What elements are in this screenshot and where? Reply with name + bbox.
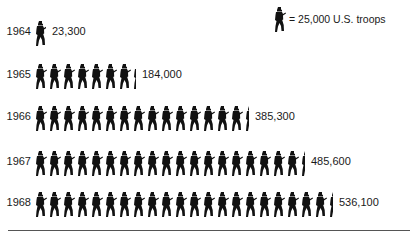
soldier-icon — [313, 191, 327, 217]
soldier-icon — [285, 191, 299, 217]
soldier-icon — [103, 150, 117, 176]
bottom-rule — [8, 230, 410, 231]
soldier-icon — [33, 150, 47, 176]
soldier-icon — [159, 105, 173, 131]
row-1964: 196423,300 — [0, 16, 86, 46]
soldier-icon — [215, 105, 229, 131]
soldier-icon — [47, 63, 61, 89]
soldier-icon — [173, 105, 187, 131]
row-1968: 1968536,100 — [0, 187, 379, 217]
value-label: 23,300 — [52, 25, 86, 37]
soldier-icon — [145, 150, 159, 176]
soldier-icon — [145, 191, 159, 217]
soldier-icon — [61, 63, 75, 89]
soldier-icon — [117, 105, 131, 131]
year-label: 1966 — [0, 110, 33, 122]
soldier-icon — [131, 105, 145, 131]
soldier-icon — [89, 150, 103, 176]
row-1966: 1966385,300 — [0, 101, 295, 131]
soldier-icon — [33, 63, 47, 89]
soldier-icon — [187, 105, 201, 131]
soldier-icon — [159, 191, 173, 217]
legend-label: = 25,000 U.S. troops — [289, 13, 386, 25]
soldier-icon — [229, 105, 243, 131]
partial-soldier-icon — [243, 105, 249, 131]
soldier-icon — [89, 63, 103, 89]
soldier-icon — [201, 191, 215, 217]
soldier-icon — [131, 150, 145, 176]
soldier-icon — [145, 105, 159, 131]
soldier-icon — [103, 105, 117, 131]
icon-group — [33, 146, 305, 176]
soldier-icon — [201, 150, 215, 176]
row-1967: 1967485,600 — [0, 146, 351, 176]
soldier-icon — [47, 150, 61, 176]
soldier-icon — [89, 105, 103, 131]
icon-group — [33, 16, 46, 46]
soldier-icon — [117, 63, 131, 89]
year-label: 1964 — [0, 25, 33, 37]
value-label: 536,100 — [339, 196, 379, 208]
row-1965: 1965184,000 — [0, 59, 182, 89]
soldier-icon — [229, 191, 243, 217]
value-label: 485,600 — [311, 155, 351, 167]
soldier-icon — [75, 105, 89, 131]
partial-soldier-icon — [299, 150, 305, 176]
soldier-icon — [285, 150, 299, 176]
soldier-icon — [75, 150, 89, 176]
soldier-icon — [229, 150, 243, 176]
soldier-icon — [75, 63, 89, 89]
soldier-icon — [103, 191, 117, 217]
soldier-icon — [243, 150, 257, 176]
soldier-icon — [215, 150, 229, 176]
soldier-icon — [173, 150, 187, 176]
soldier-icon — [299, 191, 313, 217]
soldier-icon — [271, 191, 285, 217]
icon-group — [33, 101, 249, 131]
partial-soldier-icon — [33, 20, 46, 46]
soldier-icon — [89, 191, 103, 217]
soldier-icon — [272, 6, 286, 32]
soldier-icon — [33, 105, 47, 131]
soldier-icon — [257, 191, 271, 217]
soldier-icon — [47, 105, 61, 131]
soldier-icon — [117, 150, 131, 176]
soldier-icon — [243, 191, 257, 217]
partial-soldier-icon — [131, 63, 136, 89]
soldier-icon — [61, 150, 75, 176]
soldier-icon — [159, 150, 173, 176]
soldier-icon — [61, 105, 75, 131]
soldier-icon — [131, 191, 145, 217]
year-label: 1965 — [0, 68, 33, 80]
soldier-icon — [33, 191, 47, 217]
soldier-icon — [187, 150, 201, 176]
year-label: 1967 — [0, 155, 33, 167]
soldier-icon — [271, 150, 285, 176]
soldier-icon — [187, 191, 201, 217]
year-label: 1968 — [0, 196, 33, 208]
soldier-icon — [257, 150, 271, 176]
soldier-icon — [103, 63, 117, 89]
soldier-icon — [173, 191, 187, 217]
soldier-icon — [47, 191, 61, 217]
soldier-icon — [215, 191, 229, 217]
partial-soldier-icon — [327, 191, 333, 217]
soldier-icon — [117, 191, 131, 217]
soldier-icon — [75, 191, 89, 217]
value-label: 385,300 — [255, 110, 295, 122]
soldier-icon — [201, 105, 215, 131]
icon-group — [33, 187, 333, 217]
icon-group — [33, 59, 136, 89]
legend: = 25,000 U.S. troops — [272, 6, 386, 32]
value-label: 184,000 — [142, 68, 182, 80]
soldier-icon — [61, 191, 75, 217]
